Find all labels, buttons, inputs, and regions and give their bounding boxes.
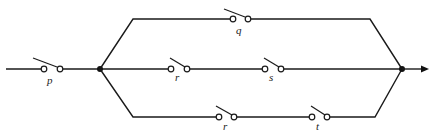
switch-contact: [309, 114, 315, 120]
switch-label-t: t: [316, 120, 320, 132]
switch-blade: [311, 106, 325, 115]
switch-contact: [41, 66, 47, 72]
switch-blade: [216, 106, 232, 115]
switch-blade: [224, 9, 245, 17]
switch-contact: [262, 66, 268, 72]
switch-contact: [57, 66, 63, 72]
top-branch: q: [100, 9, 402, 69]
switch-label-r-middle: r: [175, 71, 180, 83]
switch-blade: [264, 58, 279, 67]
switch-contact: [278, 66, 284, 72]
switch-contact: [184, 66, 190, 72]
switch-contact: [216, 114, 222, 120]
switch-label-s: s: [269, 71, 273, 83]
middle-branch: r s: [100, 58, 402, 83]
switching-circuit-diagram: p q r s r t: [0, 0, 434, 137]
switch-blade: [170, 58, 185, 67]
switch-contact: [168, 66, 174, 72]
switch-contact: [231, 114, 237, 120]
switch-label-r-bottom: r: [223, 120, 228, 132]
switch-blade: [33, 58, 57, 67]
bottom-branch: r t: [100, 69, 402, 132]
switch-contact: [324, 114, 330, 120]
switch-contact: [230, 16, 236, 22]
switch-contact: [245, 16, 251, 22]
switch-label-q: q: [236, 24, 242, 36]
switch-label-p: p: [46, 74, 53, 86]
output-arrow-icon: [421, 66, 429, 73]
switch-p: p: [33, 58, 100, 86]
